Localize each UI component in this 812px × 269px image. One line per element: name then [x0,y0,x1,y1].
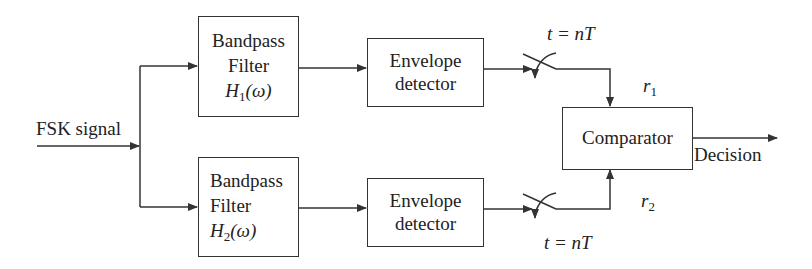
filter-2-line1: Bandpass [210,170,283,192]
switch-blade-1 [523,54,556,69]
input-label: FSK signal [36,118,121,140]
detector-1-line2: detector [368,73,483,95]
bandpass-filter-1: Bandpass Filter H1(ω) [198,16,299,117]
r2-label: r2 [641,190,655,212]
sampler-1-label: t = nT [547,23,595,45]
filter-1-transfer: H1(ω) [199,80,298,102]
comparator-label: Comparator [563,127,692,149]
arrow-r1-to-comparator [556,69,610,106]
envelope-detector-2: Envelope detector [367,178,484,247]
sampler-2-label: t = nT [544,232,592,254]
detector-2-line2: detector [368,213,483,235]
filter-1-line2: Filter [199,55,298,77]
filter-1-line1: Bandpass [199,30,298,52]
arrow-r2-to-comparator [556,170,610,209]
detector-1-line1: Envelope [368,50,483,72]
r1-label: r1 [643,75,657,97]
detector-2-line1: Envelope [368,190,483,212]
envelope-detector-1: Envelope detector [367,38,484,107]
switch-blade-2 [523,194,556,209]
decision-label: Decision [694,144,762,166]
bandpass-filter-2: Bandpass Filter H2(ω) [198,157,299,257]
filter-2-line2: Filter [210,195,251,217]
comparator: Comparator [562,107,693,170]
filter-2-transfer: H2(ω) [210,220,256,242]
